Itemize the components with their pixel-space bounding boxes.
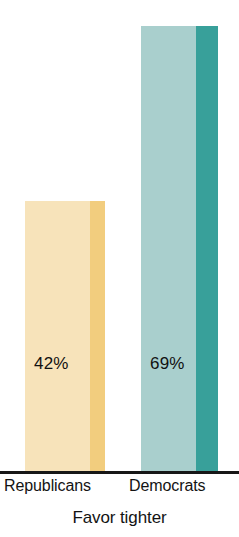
- bar-republicans: [25, 201, 105, 474]
- x-axis-category-labels: Republicans Democrats: [0, 477, 239, 503]
- bar-republicans-side: [90, 201, 105, 474]
- x-axis-line: [0, 471, 239, 474]
- value-label-republicans: 42%: [34, 354, 69, 374]
- chart-caption: Favor tighter: [0, 508, 239, 528]
- bar-republicans-face: [25, 201, 90, 474]
- bar-democrats: [141, 26, 218, 474]
- bar-democrats-face: [141, 26, 196, 474]
- plot-area: 42% 69%: [0, 0, 239, 474]
- category-label-republicans: Republicans: [4, 477, 91, 495]
- value-label-democrats: 69%: [150, 354, 185, 374]
- bar-chart: 42% 69% Republicans Democrats Favor tigh…: [0, 0, 239, 537]
- category-label-democrats: Democrats: [129, 477, 205, 495]
- bar-democrats-side: [196, 26, 218, 474]
